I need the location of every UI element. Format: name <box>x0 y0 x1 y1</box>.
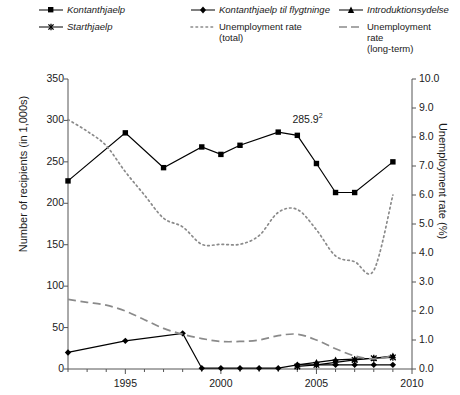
series-kontanthjaelp <box>65 129 395 195</box>
data-point-marker <box>390 362 396 368</box>
y-axis-right-tick-label: 0.0 <box>419 362 459 374</box>
y-axis-right-tick-label: 10.0 <box>419 72 459 84</box>
y-axis-left-tick-label: 150 <box>22 238 64 250</box>
series-line <box>68 299 393 358</box>
y-axis-left-tick-label: 50 <box>22 321 64 333</box>
annotation-superscript: 2 <box>319 112 323 119</box>
data-point-marker <box>161 165 166 170</box>
data-point-marker <box>218 365 224 371</box>
data-point-marker <box>65 178 70 183</box>
x-axis-tick-label: 2005 <box>286 377 346 389</box>
y-axis-left-tick-label: 200 <box>22 196 64 208</box>
data-point-marker <box>65 349 71 355</box>
data-point-marker <box>218 152 223 157</box>
data-point-marker <box>199 144 204 149</box>
y-axis-left-tick-label: 350 <box>22 72 64 84</box>
series-starthjaelp <box>295 354 396 370</box>
y-axis-right-tick-label: 5.0 <box>419 217 459 229</box>
x-axis-tick-label: 1995 <box>95 377 155 389</box>
data-point-marker <box>333 190 338 195</box>
data-point-marker <box>275 365 281 371</box>
data-point-marker <box>199 365 205 371</box>
data-point-marker <box>237 365 243 371</box>
data-point-marker <box>276 129 281 134</box>
series-line <box>297 356 393 365</box>
y-axis-right-tick-label: 1.0 <box>419 333 459 345</box>
data-point-marker <box>352 190 357 195</box>
y-axis-left-tick-label: 300 <box>22 113 64 125</box>
y-axis-left-tick-label: 100 <box>22 279 64 291</box>
x-axis-tick-label: 2010 <box>382 377 442 389</box>
y-axis-right-tick-label: 7.0 <box>419 159 459 171</box>
data-point-marker <box>314 161 319 166</box>
data-point-marker <box>390 159 395 164</box>
series-line <box>68 333 393 368</box>
data-point-marker <box>123 130 128 135</box>
chart-container: KontanthjaelpKontanthjaelp til flygtning… <box>0 0 460 395</box>
data-point-marker <box>295 133 300 138</box>
x-axis-tick-label: 2000 <box>191 377 251 389</box>
plot-area: 0501001502002503003500.01.02.03.04.05.06… <box>0 0 460 395</box>
y-axis-left-tick-label: 0 <box>22 362 64 374</box>
peak-value-label: 285.92 <box>292 112 322 125</box>
data-point-marker <box>237 143 242 148</box>
y-axis-right-tick-label: 4.0 <box>419 246 459 258</box>
data-point-marker <box>256 365 262 371</box>
chart-svg <box>0 0 460 395</box>
annotation-value: 285.9 <box>292 113 318 125</box>
series-unemployment-rate-total <box>68 120 393 274</box>
y-axis-right-tick-label: 6.0 <box>419 188 459 200</box>
series-line <box>68 120 393 274</box>
data-point-marker <box>122 338 128 344</box>
y-axis-right-tick-label: 3.0 <box>419 275 459 287</box>
y-axis-right-tick-label: 9.0 <box>419 101 459 113</box>
y-axis-right-tick-label: 8.0 <box>419 130 459 142</box>
y-axis-right-tick-label: 2.0 <box>419 304 459 316</box>
series-kontanthjaelp-til-flygtninge <box>65 330 396 371</box>
series-line <box>68 132 393 192</box>
y-axis-left-tick-label: 250 <box>22 155 64 167</box>
data-point-marker <box>371 362 377 368</box>
series-unemployment-rate-long-term <box>68 299 393 358</box>
